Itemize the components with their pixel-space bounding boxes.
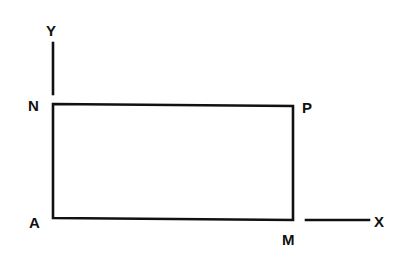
point-label-m: M [282, 231, 295, 248]
point-label-n: N [28, 97, 39, 114]
point-label-p: P [302, 99, 312, 116]
diagram-canvas: Y X N P A M [0, 0, 409, 267]
point-label-a: A [29, 214, 40, 231]
x-axis-label: X [374, 213, 384, 230]
y-axis-label: Y [46, 22, 56, 39]
rectangle-anpm [53, 104, 293, 220]
